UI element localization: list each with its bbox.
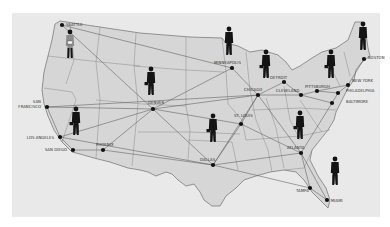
city-dot-icon <box>346 83 350 87</box>
city-dot-icon <box>362 57 366 61</box>
city-label: PITTSBURGH <box>305 84 330 89</box>
city-label: BOSTON <box>368 55 385 60</box>
city-dot-icon <box>336 91 340 95</box>
city-label: TAMPA <box>295 188 309 193</box>
city-dot-icon <box>58 135 62 139</box>
city-dot-icon <box>151 107 155 111</box>
us-network-map-illustration: SEATTLESANFRANCISCOLOS ANGELESSAN DIEGOP… <box>0 0 390 227</box>
city-dot-icon <box>325 198 329 202</box>
city-label: PHILADELPHIA <box>346 88 375 93</box>
city-dot-icon <box>282 80 286 84</box>
city-label: SEATTLE <box>66 22 83 27</box>
city-label: BALTIMORE <box>346 99 369 104</box>
city-label: MINNEAPOLIS <box>214 60 241 65</box>
city-dot-icon <box>101 148 105 152</box>
city-label: ATLANTA <box>287 145 305 150</box>
city-label: LOS ANGELES <box>27 135 55 140</box>
city-label: DETROIT <box>270 75 288 80</box>
city-label: ST. LOUIS <box>234 113 253 118</box>
city-dot-icon <box>230 66 234 70</box>
city-label: MIAMI <box>331 198 343 203</box>
city-dot-icon <box>299 151 303 155</box>
city-dot-icon <box>71 148 75 152</box>
city-label: DENVER <box>148 100 165 105</box>
city-label: CHICAGO <box>244 87 262 92</box>
city-dot-icon <box>315 89 319 93</box>
city-label: NEW YORK <box>352 78 373 83</box>
city-dot-icon <box>211 163 215 167</box>
city-dot-icon <box>299 93 303 97</box>
map-canvas: SEATTLESANFRANCISCOLOS ANGELESSAN DIEGOP… <box>0 0 390 227</box>
city-label: FRANCISCO <box>18 104 41 109</box>
city-dot-icon <box>239 122 243 126</box>
city-dot-icon <box>45 105 49 109</box>
city-label: SAN DIEGO <box>45 147 67 152</box>
city-dot-icon <box>60 23 64 27</box>
city-label: PHOENIX <box>96 142 114 147</box>
city-dot-icon <box>330 101 334 105</box>
city-label: DALLAS <box>200 157 216 162</box>
city-label: CLEVELAND <box>276 88 299 93</box>
city-dot-icon <box>256 93 260 97</box>
